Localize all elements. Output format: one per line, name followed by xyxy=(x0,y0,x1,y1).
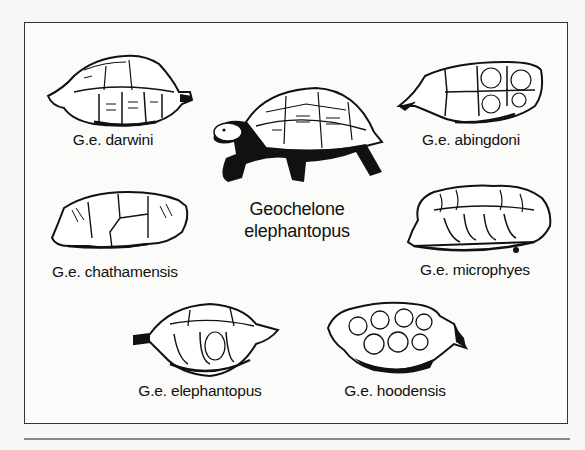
main-species-line1: Geochelone xyxy=(244,198,350,220)
subspecies-label: G.e. microphyes xyxy=(420,261,530,279)
subspecies-label: G.e. hoodensis xyxy=(344,382,445,400)
subspecies-label: G.e. elephantopus xyxy=(138,382,261,400)
main-species-label: Geochelone elephantopus xyxy=(244,198,350,242)
chathamensis-shell-icon xyxy=(48,188,192,254)
hoodensis-shell-icon xyxy=(324,298,470,380)
subspecies-label: G.e. darwini xyxy=(73,131,153,149)
subspecies-label: G.e. abingdoni xyxy=(422,131,520,149)
subspecies-label: G.e. chathamensis xyxy=(52,263,178,281)
giant-tortoise-icon xyxy=(206,82,386,198)
microphyes-shell-icon xyxy=(404,180,556,256)
main-species-line2: elephantopus xyxy=(244,220,350,242)
horizontal-rule xyxy=(24,438,570,440)
abingdoni-shell-icon xyxy=(395,56,547,130)
darwini-shell-icon xyxy=(44,48,194,132)
elephantopus-shell-icon xyxy=(130,300,282,382)
